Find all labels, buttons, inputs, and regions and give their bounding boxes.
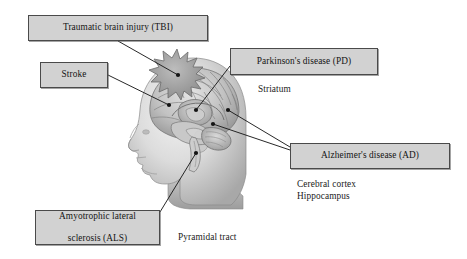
callout-traumatic-brain-injury[interactable]: Traumatic brain injury (TBI)	[28, 15, 208, 41]
callout-label-stroke: Stroke	[62, 69, 87, 80]
callout-label-als-line2: sclerosis (ALS)	[59, 233, 136, 244]
annotation-striatum: Striatum	[258, 83, 291, 95]
callout-parkinsons-disease[interactable]: Parkinson's disease (PD)	[230, 48, 378, 75]
dot-striatum	[194, 108, 198, 112]
callout-label-ad: Alzheimer's disease (AD)	[321, 150, 419, 161]
brain-disease-diagram: Traumatic brain injury (TBI) Stroke Park…	[0, 0, 467, 259]
dot-pyramidal-tract	[194, 151, 198, 155]
dot-stroke-cortex	[167, 103, 171, 107]
dot-hippocampus	[211, 122, 215, 126]
callout-amyotrophic-lateral-sclerosis[interactable]: Amyotrophic lateral sclerosis (ALS)	[35, 210, 160, 245]
annotation-pyramidal-tract: Pyramidal tract	[178, 231, 237, 243]
callout-label-tbi: Traumatic brain injury (TBI)	[63, 22, 173, 33]
callout-label-pd: Parkinson's disease (PD)	[257, 56, 351, 67]
callout-alzheimers-disease[interactable]: Alzheimer's disease (AD)	[290, 143, 450, 169]
eye-shape	[143, 130, 150, 134]
callout-stroke[interactable]: Stroke	[40, 62, 108, 88]
callout-label-als-line1: Amyotrophic lateral	[59, 211, 136, 222]
dot-cerebral-cortex	[226, 108, 230, 112]
annotation-ad-regions: Cerebral cortex Hippocampus	[297, 178, 356, 203]
dot-tbi-impact	[176, 73, 180, 77]
